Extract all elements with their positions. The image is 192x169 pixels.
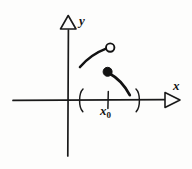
graph-canvas [0, 0, 192, 169]
open-circle-endpoint-icon [106, 43, 114, 51]
x-axis-label: x [173, 79, 180, 92]
figure-root: y x x0 [0, 0, 192, 169]
x-axis-line [13, 100, 166, 101]
y-axis-label: y [79, 14, 85, 27]
lower-branch-curve [110, 74, 130, 96]
upper-branch-curve [80, 49, 106, 67]
y-axis-line [68, 30, 69, 156]
y-axis-arrowhead-icon [61, 16, 77, 30]
x-axis-arrowhead-icon [165, 93, 180, 108]
filled-circle-endpoint-icon [103, 67, 112, 76]
x0-label-subscript: 0 [107, 110, 112, 120]
x0-label: x0 [100, 104, 111, 120]
